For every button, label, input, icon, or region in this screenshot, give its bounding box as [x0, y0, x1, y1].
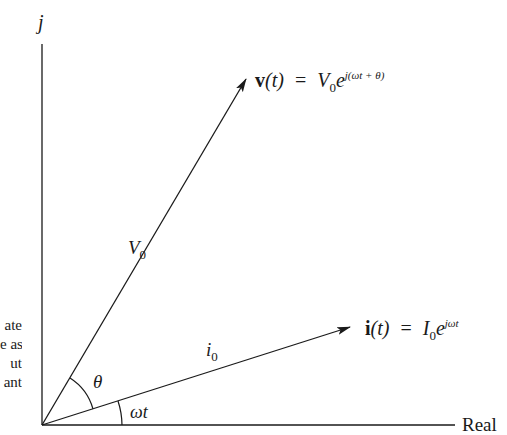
current-phasor-arrow	[42, 327, 350, 425]
current-magnitude-label: i0	[206, 340, 218, 359]
current-magnitude-sub: 0	[211, 349, 218, 364]
voltage-magnitude-symbol: V	[128, 237, 140, 258]
omega-t-angle-arc	[118, 401, 122, 425]
real-axis-label: Real	[462, 415, 497, 434]
voltage-symbol: v	[255, 69, 265, 91]
theta-label: θ	[93, 372, 102, 391]
imaginary-axis-label: j	[38, 12, 44, 32]
voltage-exp-base: e	[336, 69, 345, 91]
side-text-line: ut	[0, 354, 22, 373]
theta-angle-arc	[70, 378, 93, 409]
voltage-magnitude-label: V0	[128, 238, 146, 257]
current-exponent: jωt	[445, 317, 459, 329]
voltage-exponent: j(ωt + θ)	[345, 69, 385, 81]
voltage-amplitude: V	[317, 69, 329, 91]
side-text-line: e as	[0, 335, 22, 354]
voltage-arg: (t)	[265, 69, 284, 91]
current-exp-base: e	[436, 317, 445, 339]
voltage-equation: v(t) = V0ej(ωt + θ)	[255, 70, 384, 90]
voltage-magnitude-sub: 0	[140, 247, 147, 262]
side-text-line: ate	[0, 316, 22, 335]
current-equals: =	[400, 317, 411, 339]
omega-t-label: ωt	[130, 403, 148, 421]
phasor-diagram	[0, 0, 507, 435]
current-equation: i(t) = I0ejωt	[365, 318, 459, 338]
current-arg: (t)	[371, 317, 390, 339]
cropped-side-text: ate e as ut ant	[0, 316, 22, 392]
side-text-line: ant	[0, 373, 22, 392]
voltage-equals: =	[295, 69, 306, 91]
